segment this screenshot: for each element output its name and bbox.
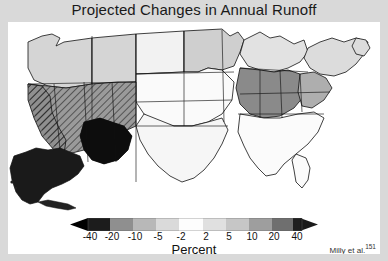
map-panel: -40 -20 -10 -5 -2 2 5 10 20 40 Percent M… <box>8 22 380 254</box>
tick-label-8: 20 <box>268 231 279 242</box>
credit-text: Milly et al. <box>330 246 366 254</box>
tick-label-6: 5 <box>226 231 232 242</box>
region-montana-dakotas <box>136 31 184 74</box>
page-title: Projected Changes in Annual Runoff <box>0 1 388 18</box>
figure-container: Projected Changes in Annual Runoff <box>0 0 388 261</box>
colorbar-bin-2 <box>133 218 156 231</box>
source-credit: Milly et al.151 <box>330 243 376 254</box>
region-upper-midwest <box>184 29 244 72</box>
colorbar <box>70 218 318 231</box>
colorbar-bin-0 <box>88 218 110 231</box>
colorbar-unit-label: Percent <box>8 242 380 254</box>
colorbar-high-arrow <box>300 218 318 231</box>
colorbar-bin-3 <box>156 218 179 231</box>
map-canvas <box>8 22 380 218</box>
colorbar-bin-8 <box>272 218 293 231</box>
tick-label-7: 10 <box>246 231 257 242</box>
tick-label-4: -2 <box>177 231 186 242</box>
region-pacific-northwest <box>28 34 92 88</box>
region-great-lakes <box>240 32 308 72</box>
tick-label-3: -5 <box>154 231 163 242</box>
region-northern-rockies <box>92 34 136 84</box>
tick-label-0: -40 <box>83 231 97 242</box>
colorbar-bin-7 <box>249 218 272 231</box>
colorbar-bin-4 <box>179 218 203 231</box>
us-runoff-map <box>8 22 380 218</box>
tick-label-2: -10 <box>128 231 142 242</box>
tick-label-9: 40 <box>291 231 302 242</box>
colorbar-low-arrow <box>70 218 88 231</box>
region-southeast <box>238 112 324 176</box>
colorbar-bin-6 <box>226 218 249 231</box>
coastline-detail <box>292 154 310 188</box>
colorbar-bin-5 <box>203 218 226 231</box>
alaska-inset <box>10 148 84 210</box>
region-appalachians <box>298 72 332 108</box>
credit-reference-number: 151 <box>365 243 376 250</box>
colorbar-bin-1 <box>110 218 133 231</box>
tick-label-5: 2 <box>203 231 209 242</box>
legend: -40 -20 -10 -5 -2 2 5 10 20 40 Percent M… <box>8 214 380 254</box>
tick-label-1: -20 <box>105 231 119 242</box>
